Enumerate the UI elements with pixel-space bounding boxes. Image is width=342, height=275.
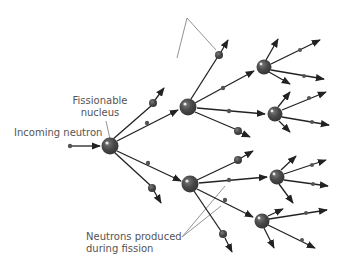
path-b-small4 bbox=[195, 112, 235, 129]
path-small4-out bbox=[241, 133, 250, 137]
small-nucleus bbox=[215, 51, 223, 59]
nucleus-highlight-icon bbox=[183, 102, 186, 105]
path-small2-out bbox=[154, 191, 161, 203]
neutron-dot bbox=[146, 161, 150, 165]
path-c-out2 bbox=[271, 40, 320, 64]
fissionable-nucleus-label: Fissionable nucleus bbox=[70, 95, 130, 119]
path-g-out4 bbox=[264, 228, 274, 248]
path-f-out3 bbox=[284, 180, 328, 186]
nucleus-highlight-icon bbox=[105, 141, 108, 144]
path-d-out1 bbox=[278, 92, 290, 107]
path-small5-out bbox=[241, 151, 253, 158]
nucleus-highlight-icon bbox=[185, 179, 188, 182]
leader-lines bbox=[106, 18, 225, 237]
path-g-out1 bbox=[268, 209, 283, 216]
neutron-dot-incoming bbox=[68, 144, 72, 148]
neutrons-produced-label-line2: during fission bbox=[86, 243, 182, 255]
neutron-dot bbox=[311, 182, 315, 186]
neutron-dot bbox=[302, 74, 306, 78]
path-small6-out bbox=[225, 238, 232, 252]
leader-line-top bbox=[177, 18, 216, 58]
nucleus-b bbox=[180, 99, 197, 116]
leader-line-neutrons-1 bbox=[182, 186, 225, 237]
nucleus-highlight-icon bbox=[273, 173, 276, 176]
path-e-g bbox=[197, 189, 253, 217]
path-d-out4 bbox=[279, 121, 290, 132]
path-e-small5 bbox=[197, 162, 235, 180]
nucleus-highlight-icon bbox=[258, 217, 261, 220]
incoming-neutron-label: Incoming neutron bbox=[14, 127, 102, 139]
leader-line-fissionable bbox=[106, 121, 110, 139]
path-a-e bbox=[117, 151, 181, 181]
nucleus-d bbox=[268, 107, 283, 122]
neutrons-produced-label: Neutrons produced during fission bbox=[86, 231, 182, 255]
fissionable-nucleus-label-line1: Fissionable bbox=[70, 95, 130, 107]
small-nuclei bbox=[148, 51, 242, 238]
nucleus-highlight-icon bbox=[271, 110, 274, 113]
neutron-dot bbox=[221, 86, 225, 90]
neutron-dot bbox=[304, 211, 308, 215]
neutron-dot bbox=[310, 120, 314, 124]
nucleus-g bbox=[255, 214, 270, 229]
path-c-out4 bbox=[269, 72, 290, 84]
large-nuclei bbox=[102, 60, 285, 229]
nucleus-c bbox=[257, 60, 272, 75]
neutron-dot bbox=[298, 48, 302, 52]
neutron-dot bbox=[300, 238, 304, 242]
path-d-out3 bbox=[282, 117, 329, 125]
neutron-dot bbox=[227, 178, 231, 182]
small-nucleus bbox=[234, 156, 242, 164]
neutrons-produced-label-line1: Neutrons produced bbox=[86, 231, 182, 243]
small-nucleus bbox=[234, 127, 242, 135]
small-nucleus bbox=[219, 230, 227, 238]
path-f-out4 bbox=[279, 184, 293, 203]
fissionable-nucleus-label-line2: nucleus bbox=[70, 107, 130, 119]
neutron-dot bbox=[310, 163, 314, 167]
small-nucleus bbox=[148, 184, 156, 192]
path-c-out1 bbox=[266, 39, 278, 60]
small-nucleus bbox=[149, 99, 157, 107]
fission-chain-diagram: Fissionable nucleus Incoming neutron Neu… bbox=[0, 0, 342, 275]
path-f-out1 bbox=[281, 156, 296, 170]
neutron-dot bbox=[307, 96, 311, 100]
fissionable-nucleus-a bbox=[102, 138, 119, 155]
neutron-dot bbox=[223, 198, 227, 202]
neutron-dot bbox=[227, 109, 231, 113]
path-e-f bbox=[199, 177, 267, 183]
path-g-out3 bbox=[268, 225, 315, 248]
path-e-small6 bbox=[194, 191, 221, 231]
nucleus-highlight-icon bbox=[260, 63, 263, 66]
path-a-small2 bbox=[114, 152, 150, 185]
nucleus-e bbox=[182, 176, 199, 193]
path-small1-out bbox=[155, 88, 164, 100]
path-small3-out bbox=[221, 40, 228, 52]
nucleus-f bbox=[270, 170, 285, 185]
neutron-dot bbox=[145, 121, 149, 125]
